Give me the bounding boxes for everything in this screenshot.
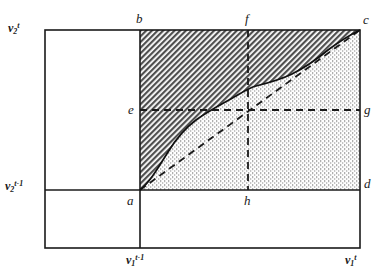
point-label-f: f [245, 12, 249, 25]
figure-container: v2t v2t-1 v1t-1 v1t b f c e g a h d [0, 0, 385, 280]
point-label-a: a [127, 194, 134, 207]
point-label-c: c [363, 13, 369, 26]
point-label-b: b [136, 12, 143, 25]
axis-label-y-top: v2t [8, 22, 20, 36]
diagram-canvas [0, 0, 385, 280]
point-label-d: d [364, 177, 371, 190]
point-label-g: g [364, 103, 371, 116]
point-label-e: e [128, 103, 134, 116]
axis-label-x-right: v1t [345, 254, 357, 268]
axis-label-y-bottom: v2t-1 [5, 180, 23, 194]
axis-label-x-left: v1t-1 [126, 254, 144, 268]
point-label-h: h [244, 194, 251, 207]
